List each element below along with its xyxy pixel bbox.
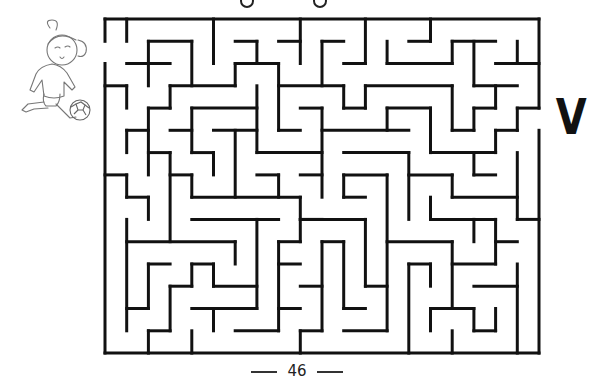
page-footer: 46 — [0, 362, 594, 380]
page-number: 46 — [287, 362, 306, 380]
footer-dash-left — [251, 371, 277, 373]
footer-dash-right — [317, 371, 343, 373]
maze-walls — [105, 19, 539, 353]
exit-label: V — [556, 92, 587, 142]
maze[interactable] — [0, 0, 594, 391]
